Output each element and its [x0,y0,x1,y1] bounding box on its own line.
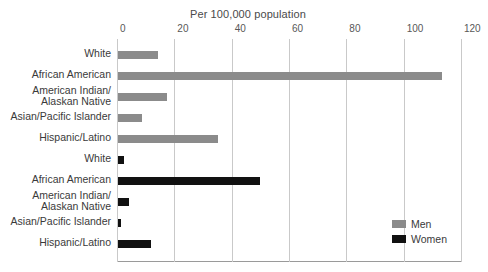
bar-row [118,107,142,128]
bar-men [118,72,442,80]
category-label: African American [32,174,111,185]
bar-women [118,156,124,164]
bar-men [118,135,218,143]
bar-row [118,233,151,254]
bar-row [118,170,260,191]
bar-men [118,114,142,122]
bar-row [118,65,442,86]
x-tick-label: 0 [117,23,126,34]
bar-women [118,198,129,206]
category-label: Asian/Pacific Islander [11,216,111,227]
bar-men [118,51,158,59]
category-label: American Indian/Alaskan Native [32,85,111,107]
chart-title: Per 100,000 population [48,8,448,20]
x-tick-label: 60 [289,23,303,34]
x-tick-label: 20 [174,23,188,34]
category-label: Hispanic/Latino [39,237,111,248]
bar-women [118,240,151,248]
bar-row [118,86,167,107]
bar-row [118,191,129,212]
gridline [461,39,462,262]
category-label: American Indian/Alaskan Native [32,190,111,212]
legend-swatch-women [392,235,406,243]
bar-row [118,149,124,170]
chart-legend: MenWomen [392,216,447,246]
legend-label: Men [411,218,431,230]
legend-swatch-men [392,220,406,228]
category-label: White [84,48,111,59]
legend-item: Men [392,216,447,231]
x-tick-label: 120 [461,23,481,34]
x-tick-label: 100 [404,23,424,34]
category-label: White [84,153,111,164]
bar-row [118,212,121,233]
bar-men [118,93,167,101]
category-label: Asian/Pacific Islander [11,111,111,122]
category-label: Hispanic/Latino [39,132,111,143]
legend-label: Women [411,233,447,245]
bar-women [118,219,121,227]
category-axis-labels: WhiteAfrican AmericanAmerican Indian/Ala… [0,39,114,262]
category-label-line2: Alaskan Native [32,201,111,212]
x-tick-label: 80 [346,23,360,34]
x-tick-label: 40 [232,23,246,34]
bar-row [118,44,158,65]
chart-container: Per 100,000 population WhiteAfrican Amer… [0,0,488,272]
legend-item: Women [392,231,447,246]
bar-row [118,128,218,149]
category-label-line2: Alaskan Native [32,96,111,107]
bar-women [118,177,260,185]
category-label: African American [32,69,111,80]
